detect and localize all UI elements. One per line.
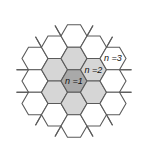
edge-stub bbox=[107, 37, 113, 47]
edge-stub bbox=[107, 115, 113, 125]
edge-stub bbox=[55, 26, 61, 36]
edge-stub bbox=[36, 37, 42, 47]
hex-cell-diagram: n =1n =2n =3 bbox=[0, 0, 146, 157]
ring-label: n =1 bbox=[65, 76, 83, 86]
edge-stub bbox=[36, 115, 42, 125]
ring-label: n =2 bbox=[85, 65, 103, 75]
edge-stub bbox=[87, 26, 93, 36]
edge-stub bbox=[55, 126, 61, 136]
ring-label: n =3 bbox=[104, 53, 122, 63]
hex-grid: n =1n =2n =3 bbox=[0, 0, 146, 157]
edge-stub bbox=[87, 126, 93, 136]
